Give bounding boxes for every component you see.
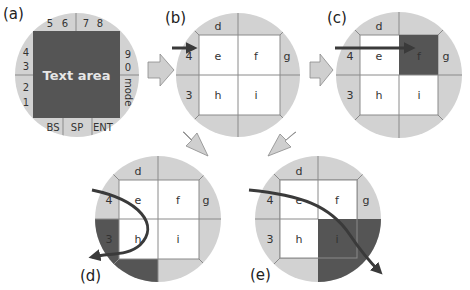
cell-i[interactable]: i <box>176 233 179 246</box>
cell-4[interactable]: 4 <box>347 50 354 63</box>
cell-4[interactable]: 4 <box>186 50 193 63</box>
cell-3[interactable]: 3 <box>347 89 354 102</box>
key-2[interactable]: 2 <box>23 82 29 93</box>
panel-d: d 4 3 g e f h i (d) <box>80 150 225 290</box>
key-8[interactable]: 8 <box>97 18 103 29</box>
cell-d[interactable]: d <box>296 165 303 178</box>
cell-g[interactable]: g <box>363 194 370 207</box>
key-bs[interactable]: BS <box>46 122 59 133</box>
key-6[interactable]: 6 <box>62 18 68 29</box>
cell-3[interactable]: 3 <box>106 233 113 246</box>
key-mode[interactable]: mode <box>123 78 134 106</box>
cell-g[interactable]: g <box>443 50 450 63</box>
key-sp[interactable]: SP <box>71 122 83 133</box>
highlighted-quadrant-i <box>318 219 388 289</box>
cell-e[interactable]: e <box>135 194 142 207</box>
key-4[interactable]: 4 <box>23 47 29 58</box>
cell-4[interactable]: 4 <box>267 194 274 207</box>
panel-label-e: (e) <box>250 266 271 284</box>
cell-i[interactable]: i <box>254 89 257 102</box>
cell-h[interactable]: h <box>296 233 303 246</box>
cell-d[interactable]: d <box>135 165 142 178</box>
panel-b: (b) d 4 3 g e f h i <box>165 9 305 140</box>
key-3[interactable]: 3 <box>23 61 29 72</box>
panel-c: (c) d 4 3 g e f h i <box>327 9 465 140</box>
panel-label-d: (d) <box>80 267 101 285</box>
key-9[interactable]: 9 <box>125 49 131 60</box>
panel-label-a: (a) <box>3 5 24 23</box>
key-5[interactable]: 5 <box>47 18 53 29</box>
cell-i[interactable]: i <box>417 89 420 102</box>
cell-h[interactable]: h <box>376 89 383 102</box>
key-1[interactable]: 1 <box>23 97 29 108</box>
text-area-label: Text area <box>43 68 111 83</box>
key-7[interactable]: 7 <box>83 18 89 29</box>
panel-label-b: (b) <box>165 9 186 27</box>
cell-i[interactable]: i <box>335 233 338 246</box>
panel-label-c: (c) <box>327 9 347 27</box>
transition-arrow-b-to-d <box>183 132 208 156</box>
cell-3[interactable]: 3 <box>186 89 193 102</box>
cell-e[interactable]: e <box>215 50 222 63</box>
panel-a: (a) Text area 5 6 7 8 4 3 2 1 9 0 mode B… <box>3 5 145 140</box>
cell-d[interactable]: d <box>376 20 383 33</box>
transition-arrow-b-to-e <box>268 132 296 156</box>
cell-g[interactable]: g <box>284 50 291 63</box>
diagram-canvas: (a) Text area 5 6 7 8 4 3 2 1 9 0 mode B… <box>0 0 470 290</box>
cell-d[interactable]: d <box>215 20 222 33</box>
key-0[interactable]: 0 <box>125 62 131 73</box>
key-ent[interactable]: ENT <box>93 122 114 133</box>
transition-arrow-b-to-c <box>310 54 333 86</box>
cell-g[interactable]: g <box>203 194 210 207</box>
panel-e: d 4 3 g e f h i (e) <box>249 150 388 289</box>
cell-e[interactable]: e <box>376 50 383 63</box>
cell-3[interactable]: 3 <box>267 233 274 246</box>
cell-h[interactable]: h <box>215 89 222 102</box>
transition-arrow-a-to-b <box>148 54 174 86</box>
